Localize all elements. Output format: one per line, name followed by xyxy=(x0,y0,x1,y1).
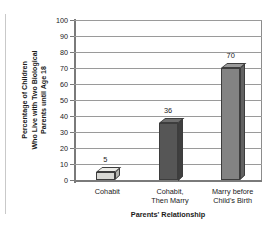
tick-mark xyxy=(70,132,74,133)
bar-value-label: 5 xyxy=(103,155,107,164)
y-axis-title-line-2: Who Live with Two Biological xyxy=(30,14,40,186)
y-tick-label: 100 xyxy=(56,16,68,25)
x-axis-line xyxy=(74,180,262,182)
tick-mark xyxy=(70,116,74,117)
y-tick-label: 70 xyxy=(60,64,68,73)
x-tick-label-line: Marry before xyxy=(212,187,253,196)
x-axis-title: Parents' Relationship xyxy=(74,210,262,219)
y-tick-label: 40 xyxy=(60,112,68,121)
y-tick-label: 30 xyxy=(60,128,68,137)
bar-front-face xyxy=(96,172,115,180)
x-tick-label: Cohabit,Then Marry xyxy=(151,187,188,206)
bar: 36 xyxy=(159,123,178,181)
y-tick-label: 90 xyxy=(60,32,68,41)
bar-front-face xyxy=(221,68,240,180)
plot-area: 0102030405060708090100 53670 CohabitCoha… xyxy=(74,20,262,182)
bar-chart-figure: Percentage of Children Who Live with Two… xyxy=(0,0,277,228)
tick-mark xyxy=(70,36,74,37)
tick-mark xyxy=(70,148,74,149)
x-tick-label-line: Child's Birth xyxy=(212,196,253,205)
y-tick-label: 0 xyxy=(64,176,68,185)
bar-front-face xyxy=(159,123,178,181)
tick-mark xyxy=(70,84,74,85)
bar: 70 xyxy=(221,68,240,180)
x-tick-label-line: Cohabit xyxy=(95,187,120,196)
tick-mark xyxy=(70,20,74,21)
tick-mark xyxy=(70,100,74,101)
bar-side-face xyxy=(240,63,245,180)
y-axis-title-line-1: Percentage of Children xyxy=(21,14,31,186)
tick-mark xyxy=(70,164,74,165)
y-tick-label: 80 xyxy=(60,48,68,57)
bar-value-label: 36 xyxy=(164,106,172,115)
figure-left-rule xyxy=(5,14,6,214)
bar-side-face xyxy=(178,118,183,181)
tick-mark xyxy=(70,180,74,181)
bar: 5 xyxy=(96,172,115,180)
x-tick-label: Cohabit xyxy=(95,187,120,196)
gridline xyxy=(74,36,262,37)
y-axis-title: Percentage of Children Who Live with Two… xyxy=(14,14,56,186)
bar-value-label: 70 xyxy=(227,51,235,60)
x-tick-label: Marry beforeChild's Birth xyxy=(212,187,253,206)
x-tick-label-line: Then Marry xyxy=(151,196,188,205)
tick-mark xyxy=(70,52,74,53)
gridline xyxy=(74,20,262,21)
y-tick-label: 10 xyxy=(60,160,68,169)
y-tick-label: 50 xyxy=(60,96,68,105)
tick-mark xyxy=(70,68,74,69)
y-tick-label: 20 xyxy=(60,144,68,153)
x-tick-label-line: Cohabit, xyxy=(151,187,188,196)
y-axis-title-line-3: Parents until Age 18 xyxy=(40,14,50,186)
y-tick-label: 60 xyxy=(60,80,68,89)
